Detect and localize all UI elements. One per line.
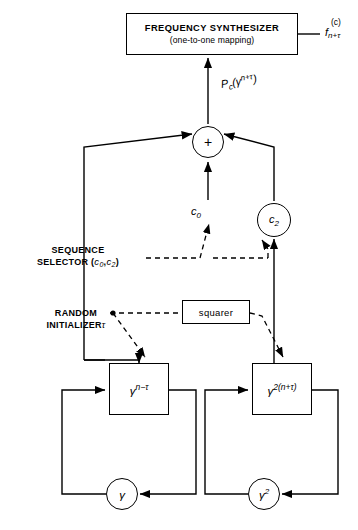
gamma-circle-right-text: γ2 — [259, 487, 269, 501]
gamma-left-expression: γn−τ — [130, 382, 149, 397]
random-initializer-label: RANDOM INITIALIZERτ — [18, 307, 134, 331]
sequence-selector-label: SEQUENCE SELECTOR (c0,c2) — [12, 244, 144, 271]
output-signal-label: (c) fn+τ — [325, 18, 341, 41]
random-initializer-line1: RANDOM — [18, 307, 134, 319]
adder-node: + — [192, 126, 224, 158]
adder-symbol: + — [204, 135, 212, 149]
gamma-left-exponent: n−τ — [135, 382, 148, 392]
wire-selector-to-c2 — [262, 240, 268, 258]
sequence-selector-line2: SELECTOR (c0,c2) — [12, 256, 144, 271]
gamma-right-expression: γ2(n+τ) — [267, 382, 296, 397]
gamma-feedback-node-right: γ2 — [248, 478, 280, 510]
c2-multiplier-node: c2 — [257, 203, 291, 237]
gamma-circle-right-exponent: 2 — [265, 487, 269, 496]
output-subscript: n+τ — [328, 31, 340, 40]
wire-left-feedback-in — [62, 390, 106, 494]
wire-squarer-to-right-box — [250, 313, 283, 357]
gamma-right-exponent: 2(n+τ) — [273, 382, 296, 392]
sequence-selector-line1: SEQUENCE — [12, 244, 144, 256]
random-initializer-line2-group: INITIALIZERτ — [18, 319, 134, 331]
sequence-selector-prefix: SELECTOR ( — [37, 257, 94, 267]
output-superscript: (c) — [331, 18, 341, 27]
gamma-circle-left-base: γ — [119, 489, 125, 501]
output-base-group: fn+τ — [325, 27, 341, 41]
wire-selector-to-c0 — [200, 224, 209, 258]
frequency-synthesizer-diagram: FREQUENCY SYNTHESIZER (one-to-one mappin… — [0, 0, 358, 530]
squarer-label: squarer — [199, 307, 233, 318]
gamma-circle-left-text: γ — [119, 487, 125, 501]
random-initializer-line2: INITIALIZER — [47, 320, 102, 330]
c0-subscript: 0 — [197, 211, 201, 220]
gamma-state-left-block: γn−τ — [109, 363, 169, 415]
gamma-state-right-block: γ2(n+τ) — [252, 363, 312, 415]
c2-label-group: c2 — [269, 213, 279, 228]
c2-subscript: 2 — [275, 219, 279, 228]
wire-left-to-adder — [84, 134, 192, 240]
synthesizer-title: FREQUENCY SYNTHESIZER — [145, 22, 279, 34]
squarer-block: squarer — [182, 300, 250, 324]
sequence-selector-suffix: ) — [116, 257, 119, 267]
frequency-synthesizer-block: FREQUENCY SYNTHESIZER (one-to-one mappin… — [126, 13, 298, 55]
c0-coefficient-label: c0 — [191, 205, 201, 220]
synthesizer-subtitle: (one-to-one mapping) — [170, 34, 255, 46]
random-initializer-tau: τ — [102, 320, 106, 330]
wire-right-feedback-in — [205, 390, 248, 494]
wire-c2-to-adder — [224, 134, 274, 201]
gamma-feedback-node-left: γ — [106, 478, 138, 510]
